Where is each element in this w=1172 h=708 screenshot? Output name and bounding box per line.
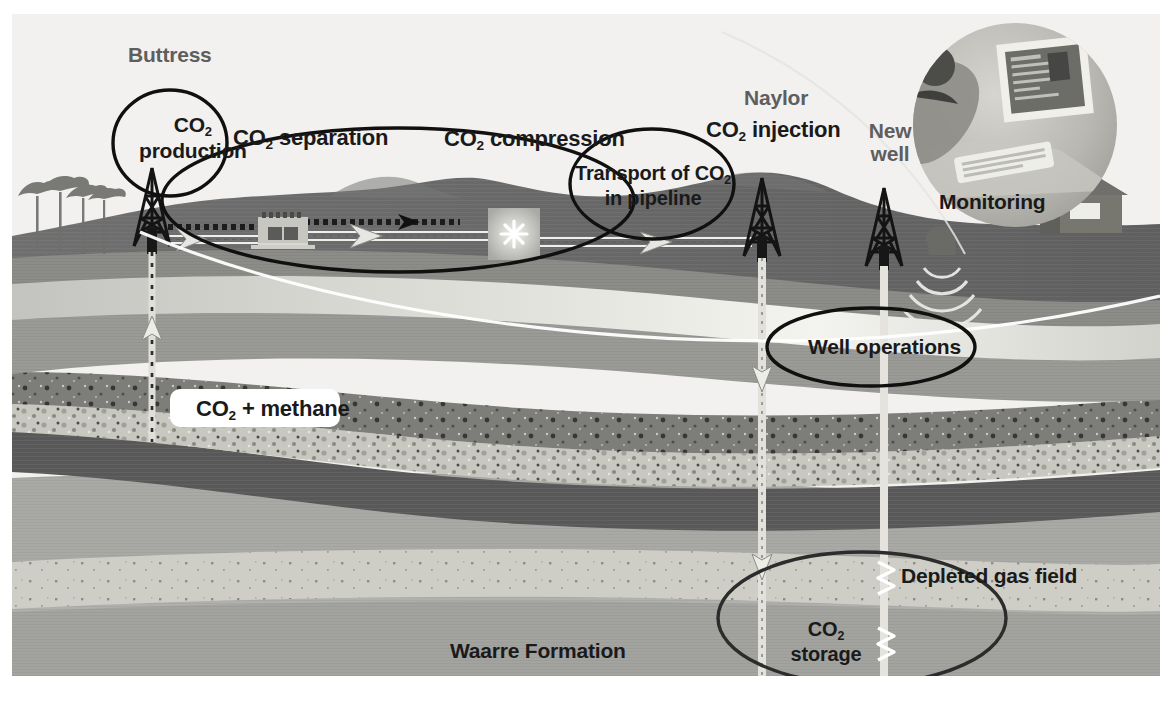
label-co2-injection: CO2 injection [706,117,841,143]
co2-production-subscript: 2 [205,124,212,139]
label-co2-production: CO2 production [139,113,247,162]
label-co2-compression: CO2 compression [444,126,625,152]
label-monitoring: Monitoring [939,190,1045,214]
label-well-operations: Well operations [808,335,961,359]
co2-production-text: CO [174,113,205,136]
diagram-canvas [0,0,1172,708]
label-depleted-gas-field: Depleted gas field [901,564,1077,588]
label-co2-separation: CO2 separation [233,125,388,151]
label-new-well: New well [860,119,920,165]
compression-star-icon [501,221,527,247]
compression-station [488,208,540,260]
label-naylor: Naylor [744,86,808,110]
label-co2-storage: CO2 storage [790,618,862,665]
buttress-wellhead [147,228,157,254]
label-buttress: Buttress [128,43,212,67]
co2-production-text2: production [139,139,247,162]
label-transport-pipeline: Transport of CO2 in pipeline [573,162,733,209]
label-co2-methane: CO2 + methane [196,396,350,422]
label-waarre-formation: Waarre Formation [450,639,626,663]
ccs-diagram-figure: Buttress CO2 production CO2 separation C… [0,0,1172,708]
separation-plant [251,212,315,249]
